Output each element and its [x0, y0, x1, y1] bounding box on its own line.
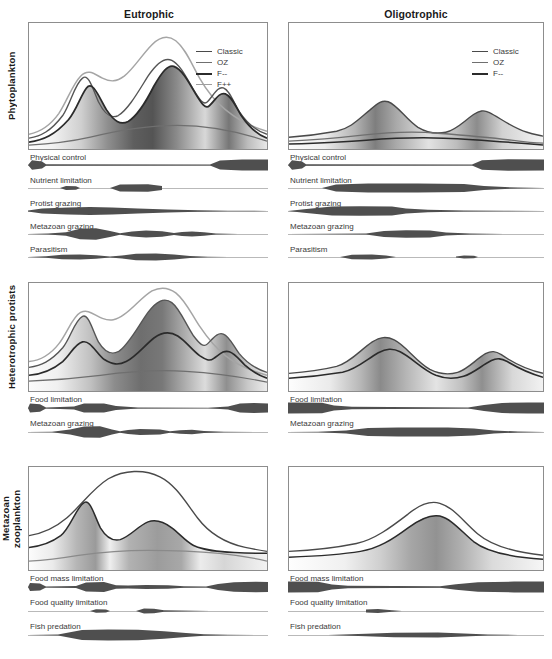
- plot-metazoan-eutrophic: [28, 466, 268, 571]
- legend-label-f-minus-oligo: F--: [493, 68, 503, 79]
- process-row-metazoan-grazing-protist: Metazoan grazing: [28, 419, 268, 443]
- plot-protists-oligotrophic: [288, 282, 544, 392]
- process-bars-metazoan-oligotrophic: Food mass limitation Food quality limita…: [288, 574, 544, 646]
- process-bar-metazoan-grazing-oligo: [288, 227, 544, 241]
- legend-item-classic: Classic: [196, 46, 243, 57]
- legend-swatch-classic-oligo: [472, 51, 488, 52]
- process-row-protist-grazing-oligo: Protist grazing: [288, 199, 544, 222]
- column-header-eutrophic: Eutrophic: [30, 8, 268, 20]
- plot-metazoan-oligotrophic: [288, 466, 544, 571]
- legend-label-oz: OZ: [217, 57, 228, 68]
- row-metazoan-zooplankton: Metazoan zooplankton: [0, 466, 552, 659]
- process-row-metazoan-grazing: Metazoan grazing: [28, 222, 268, 245]
- process-bar-food-mass-limitation: [28, 580, 268, 594]
- row-title-metazoan-zooplankton: Metazoan zooplankton: [0, 466, 22, 571]
- process-bar-protist-grazing: [28, 204, 268, 218]
- process-bar-fish-predation-oligo: [288, 628, 544, 642]
- figure-root: Eutrophic Oligotrophic Phytoplankton: [0, 0, 552, 659]
- process-bar-physical-control-oligo: [288, 158, 544, 172]
- legend-swatch-classic: [196, 51, 212, 52]
- legend-item-classic-oligo: Classic: [472, 46, 519, 57]
- process-row-protist-grazing: Protist grazing: [28, 199, 268, 222]
- process-bars-metazoan-eutrophic: Food mass limitation Food quality limita…: [28, 574, 268, 646]
- row-heterotrophic-protists: Heterotrophic protists: [0, 282, 552, 462]
- legend-item-oz-oligo: OZ: [472, 57, 519, 68]
- process-row-food-quality-limitation: Food quality limitation: [28, 598, 268, 622]
- process-row-food-limitation: Food limitation: [28, 395, 268, 419]
- legend-label-f-plus: F++: [217, 79, 231, 90]
- process-row-parasitism: Parasitism: [28, 245, 268, 268]
- process-row-fish-predation-oligo: Fish predation: [288, 622, 544, 646]
- process-bar-food-mass-limitation-oligo: [288, 580, 544, 594]
- process-bar-physical-control: [28, 158, 268, 172]
- legend-label-classic: Classic: [217, 46, 243, 57]
- process-bar-nutrient-limitation: [28, 181, 268, 195]
- process-row-food-limitation-oligo: Food limitation: [288, 395, 544, 419]
- legend-label-oz-oligo: OZ: [493, 57, 504, 68]
- process-bar-fish-predation: [28, 628, 268, 642]
- legend-swatch-oz-oligo: [472, 62, 488, 63]
- legend-eutrophic: Classic OZ F-- F++: [196, 46, 243, 90]
- plot-phytoplankton-oligotrophic: [288, 22, 544, 150]
- process-bar-parasitism: [28, 250, 268, 264]
- process-row-food-mass-limitation-oligo: Food mass limitation: [288, 574, 544, 598]
- legend-label-f-minus: F--: [217, 68, 227, 79]
- legend-item-f-minus: F--: [196, 68, 243, 79]
- legend-swatch-f-plus: [196, 84, 212, 85]
- process-row-metazoan-grazing-oligo: Metazoan grazing: [288, 222, 544, 245]
- process-row-nutrient-limitation: Nutrient limitation: [28, 176, 268, 199]
- legend-swatch-f-minus: [196, 73, 212, 75]
- legend-item-f-plus: F++: [196, 79, 243, 90]
- process-row-parasitism-oligo: Parasitism: [288, 245, 544, 268]
- process-bar-metazoan-grazing-protist-oligo: [288, 425, 544, 439]
- process-row-nutrient-limitation-oligo: Nutrient limitation: [288, 176, 544, 199]
- legend-item-f-minus-oligo: F--: [472, 68, 519, 79]
- process-bar-parasitism-oligo: [288, 250, 544, 264]
- process-row-fish-predation: Fish predation: [28, 622, 268, 646]
- process-row-food-mass-limitation: Food mass limitation: [28, 574, 268, 598]
- process-row-food-quality-limitation-oligo: Food quality limitation: [288, 598, 544, 622]
- row-title-heterotrophic-protists: Heterotrophic protists: [0, 282, 22, 392]
- process-bar-protist-grazing-oligo: [288, 204, 544, 218]
- plot-protists-eutrophic: [28, 282, 268, 392]
- process-bar-food-quality-limitation: [28, 604, 268, 618]
- process-row-metazoan-grazing-protist-oligo: Metazoan grazing: [288, 419, 544, 443]
- legend-swatch-oz: [196, 62, 212, 63]
- process-row-physical-control-oligo: Physical control: [288, 153, 544, 176]
- legend-oligotrophic: Classic OZ F--: [472, 46, 519, 79]
- process-bar-metazoan-grazing-protist: [28, 425, 268, 439]
- process-bars-phytoplankton-eutrophic: Physical control Nutrient limitation: [28, 153, 268, 268]
- process-bar-nutrient-limitation-oligo: [288, 181, 544, 195]
- legend-item-oz: OZ: [196, 57, 243, 68]
- legend-label-classic-oligo: Classic: [493, 46, 519, 57]
- process-bar-food-quality-limitation-oligo: [288, 604, 544, 618]
- legend-swatch-f-minus-oligo: [472, 73, 488, 75]
- process-bars-protists-eutrophic: Food limitation Metazoan grazing: [28, 395, 268, 443]
- process-bar-food-limitation-oligo: [288, 401, 544, 415]
- process-bars-protists-oligotrophic: Food limitation Metazoan grazing: [288, 395, 544, 443]
- process-bar-food-limitation: [28, 401, 268, 415]
- process-bar-metazoan-grazing: [28, 227, 268, 241]
- process-row-physical-control: Physical control: [28, 153, 268, 176]
- row-title-phytoplankton: Phytoplankton: [0, 22, 22, 150]
- row-phytoplankton: Phytoplankton: [0, 22, 552, 272]
- process-bars-phytoplankton-oligotrophic: Physical control Nutrient limitation: [288, 153, 544, 268]
- column-header-oligotrophic: Oligotrophic: [288, 8, 544, 20]
